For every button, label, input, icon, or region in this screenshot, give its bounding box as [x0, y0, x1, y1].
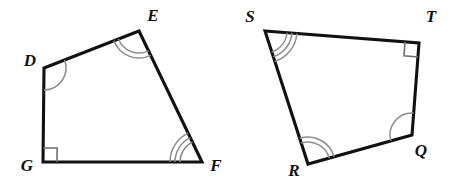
quadrilateral-defg	[43, 31, 202, 162]
vertex-label-f: F	[209, 156, 222, 175]
vertex-label-layer: DEFGSTQR	[21, 6, 437, 180]
vertex-label-g: G	[21, 156, 34, 175]
angle-mark-layer	[43, 33, 418, 162]
vertex-label-q: Q	[415, 141, 427, 160]
quadrilateral-stqr	[265, 31, 419, 164]
angle-arc-f-1	[180, 142, 192, 162]
vertex-label-e: E	[146, 6, 158, 25]
vertex-label-t: T	[426, 7, 437, 26]
figure-svg: DEFGSTQR	[0, 0, 449, 187]
shape-layer	[43, 31, 419, 164]
geometry-diagram: DEFGSTQR	[0, 0, 449, 187]
vertex-label-d: D	[23, 51, 36, 70]
vertex-label-s: S	[245, 7, 254, 26]
right-angle-mark-g	[43, 148, 57, 162]
vertex-label-r: R	[287, 161, 299, 180]
